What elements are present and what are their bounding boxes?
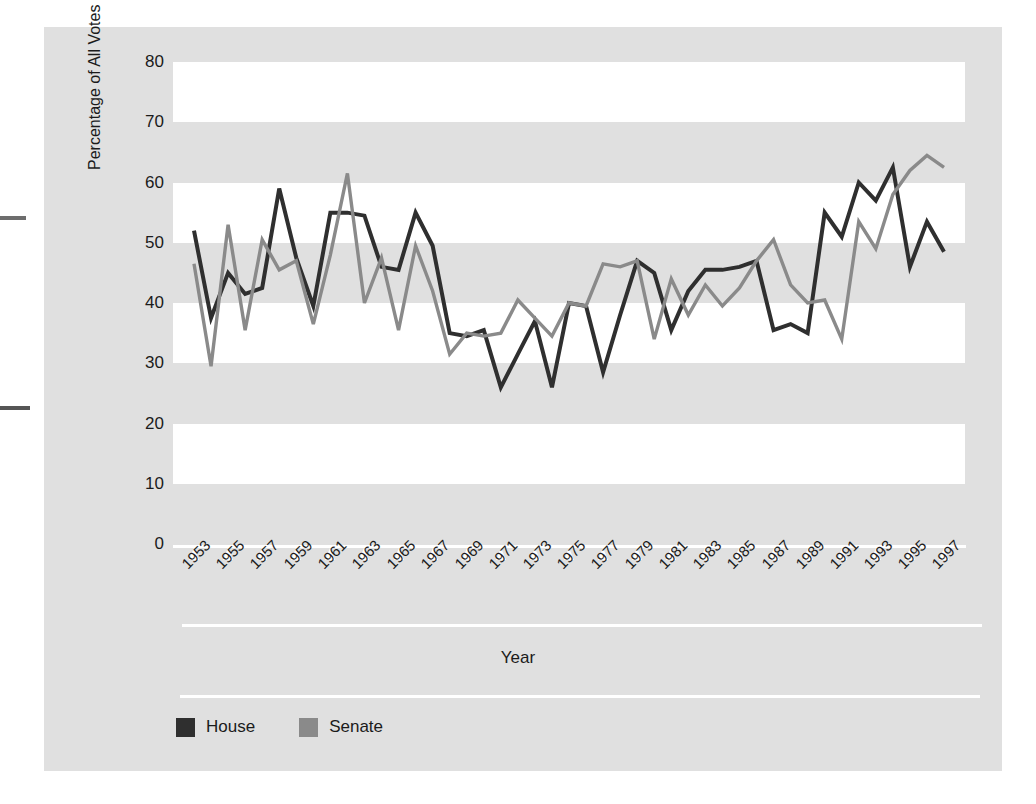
y-axis-tick-30: 30 bbox=[124, 354, 164, 371]
y-axis-tick-40: 40 bbox=[124, 294, 164, 311]
legend-swatch-square-house bbox=[176, 718, 195, 737]
y-axis-tick-80: 80 bbox=[124, 53, 164, 70]
plot-area bbox=[173, 62, 965, 544]
y-axis-title: Percentage of All Votes bbox=[86, 5, 104, 170]
y-axis-tick-70: 70 bbox=[124, 113, 164, 130]
page-edge-left bbox=[0, 0, 44, 804]
series-line-house bbox=[194, 167, 944, 387]
y-axis-tick-20: 20 bbox=[124, 415, 164, 432]
y-axis-tick-labels: 80706050403020100 bbox=[118, 62, 164, 544]
divider-below-axis-title bbox=[180, 695, 980, 698]
page-edge-mark-upper bbox=[0, 216, 26, 220]
legend-label-senate: Senate bbox=[329, 717, 383, 737]
series-line-senate bbox=[194, 155, 944, 366]
legend-item-senate[interactable]: Senate bbox=[299, 717, 383, 737]
y-axis-tick-50: 50 bbox=[124, 234, 164, 251]
x-axis-title: Year bbox=[0, 648, 1036, 668]
series-canvas bbox=[173, 62, 965, 544]
legend-item-house[interactable]: House bbox=[176, 717, 255, 737]
page-edge-mark-lower bbox=[0, 406, 30, 410]
chart-legend: HouseSenate bbox=[176, 714, 383, 740]
y-axis-tick-10: 10 bbox=[124, 475, 164, 492]
legend-label-house: House bbox=[206, 717, 255, 737]
y-axis-tick-60: 60 bbox=[124, 174, 164, 191]
y-axis-tick-0: 0 bbox=[124, 535, 164, 552]
x-axis-tick-labels: 1953195519571959196119631965196719691971… bbox=[173, 560, 993, 620]
legend-swatch-square-senate bbox=[299, 718, 318, 737]
divider-above-axis-title bbox=[182, 624, 982, 627]
chart-figure: Percentage of All Votes 8070605040302010… bbox=[0, 0, 1036, 804]
